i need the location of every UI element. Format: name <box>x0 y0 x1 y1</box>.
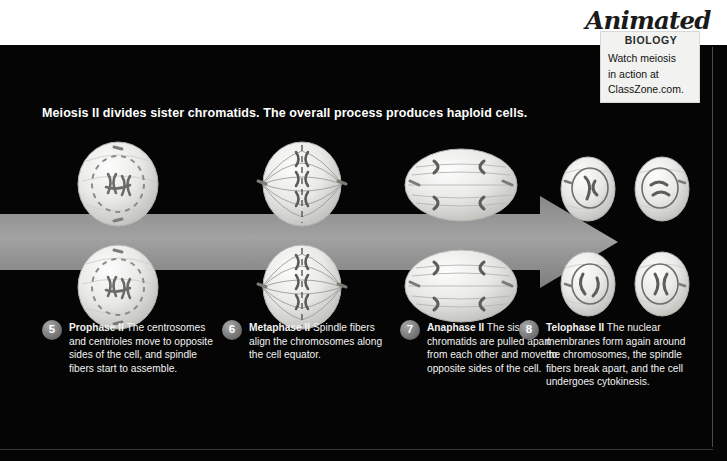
telophase-II-cell-bottom-left <box>557 250 619 318</box>
badge-line-3[interactable]: ClassZone.com. <box>608 82 700 98</box>
badge-line-1: Watch meiosis <box>608 51 700 67</box>
telophase-II-cell-top-right <box>631 155 693 223</box>
caption-text-6: Metaphase II Spindle fibers align the ch… <box>249 321 394 362</box>
badge-callout-lines: Watch meiosis in action at ClassZone.com… <box>608 51 700 98</box>
page-title: Meiosis II divides sister chromatids. Th… <box>42 106 527 120</box>
telophase-II-cell-bottom-right <box>631 250 693 318</box>
step-number-badge-8: 8 <box>519 320 539 340</box>
caption-term-6: Metaphase II <box>249 322 310 333</box>
diagram-root: Meiosis II divides sister chromatids. Th… <box>0 0 727 461</box>
badge-subtitle: BIOLOGY <box>601 34 701 46</box>
badge-line-2: in action at <box>608 67 700 83</box>
caption-term-8: Telophase II <box>546 322 604 333</box>
prophase-II-cell-top <box>66 141 170 227</box>
anaphase-II-cell-bottom <box>400 248 522 324</box>
panel-bottom-border <box>0 449 713 450</box>
anaphase-II-cell-top <box>400 147 522 223</box>
caption-term-5: Prophase II <box>69 322 124 333</box>
metaphase-II-cell-bottom <box>252 244 352 330</box>
caption-text-8: Telophase II The nuclear membranes form … <box>546 321 701 389</box>
prophase-II-cell-bottom <box>66 244 170 330</box>
caption-term-7: Anaphase II <box>427 322 484 333</box>
animated-biology-badge[interactable]: Animated BIOLOGY Watch meiosis in action… <box>583 5 715 108</box>
badge-callout-box: BIOLOGY Watch meiosis in action at Class… <box>600 31 700 103</box>
metaphase-II-cell-top <box>252 141 352 227</box>
step-number-badge-5: 5 <box>42 320 62 340</box>
caption-text-5: Prophase II The centrosomes and centriol… <box>69 321 217 375</box>
step-number-badge-7: 7 <box>400 320 420 340</box>
telophase-II-cell-top-left <box>557 155 619 223</box>
step-number-badge-6: 6 <box>222 320 242 340</box>
